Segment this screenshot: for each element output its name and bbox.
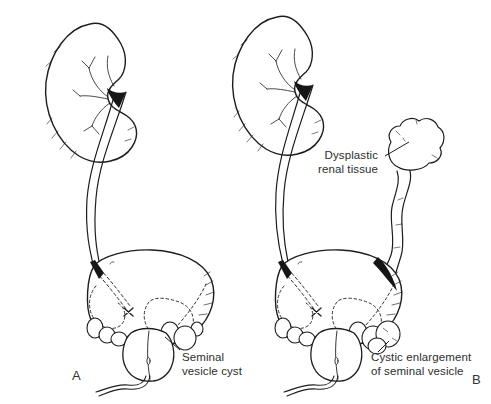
panel-a-illustration: [46, 23, 214, 396]
label-dysplastic-line2: renal tissue: [300, 162, 378, 176]
label-cystic-line1: Cystic enlargement: [371, 350, 471, 364]
panel-a-letter: A: [72, 368, 81, 383]
label-seminal-vesicle-cyst-line2: vesicle cyst: [182, 364, 242, 378]
label-cystic-line2: of seminal vesicle: [371, 364, 471, 378]
label-seminal-vesicle-cyst-line1: Seminal: [182, 350, 242, 364]
label-cystic-enlargement: Cystic enlargement of seminal vesicle: [371, 350, 471, 378]
line-art-canvas: [0, 0, 491, 404]
kidney-b: [233, 16, 324, 155]
dysplastic-renal-tissue-b: [389, 119, 444, 171]
kidney-a: [46, 23, 137, 162]
label-seminal-vesicle-cyst: Seminal vesicle cyst: [182, 350, 242, 378]
label-dysplastic-renal-tissue: Dysplastic renal tissue: [300, 148, 378, 176]
medical-figure: Seminal vesicle cyst Dysplastic renal ti…: [0, 0, 491, 404]
panel-b-letter: B: [472, 372, 481, 387]
label-dysplastic-line1: Dysplastic: [300, 148, 378, 162]
panel-b-illustration: [233, 16, 444, 396]
